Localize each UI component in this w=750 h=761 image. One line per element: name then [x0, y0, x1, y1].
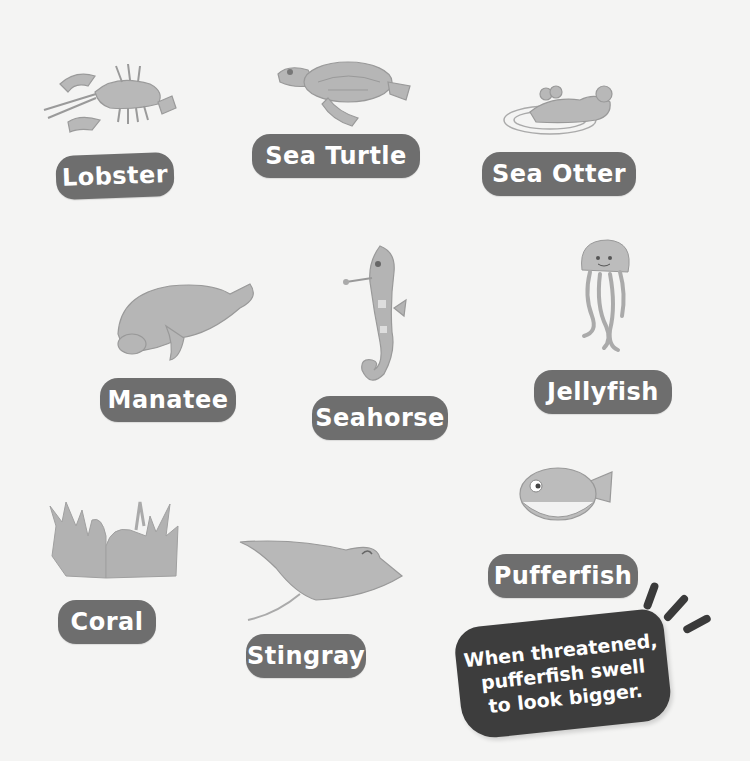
label-pufferfish: Pufferfish — [488, 554, 638, 598]
label-text: Seahorse — [315, 404, 445, 432]
lobster-illustration — [40, 62, 190, 142]
label-coral: Coral — [58, 600, 156, 644]
label-text: Pufferfish — [494, 562, 633, 590]
label-sea-otter: Sea Otter — [482, 152, 636, 196]
label-sea-turtle: Sea Turtle — [252, 134, 420, 178]
label-manatee: Manatee — [100, 378, 236, 422]
label-seahorse: Seahorse — [312, 396, 448, 440]
manatee-illustration — [110, 274, 255, 364]
seahorse-illustration — [340, 242, 420, 392]
label-jellyfish: Jellyfish — [534, 370, 672, 414]
label-text: Manatee — [108, 386, 229, 414]
label-text: Stingray — [247, 642, 365, 670]
label-text: Sea Turtle — [265, 142, 407, 170]
emphasis-mark — [682, 613, 712, 634]
label-text: Jellyfish — [547, 378, 659, 406]
emphasis-mark — [662, 593, 689, 622]
fact-bubble: When threatened, pufferfish swell to loo… — [453, 607, 674, 740]
page-background: Lobster Sea Turtle Sea Otter — [0, 0, 750, 761]
jellyfish-illustration — [572, 236, 642, 356]
label-text: Coral — [71, 608, 144, 636]
label-stingray: Stingray — [246, 634, 366, 678]
label-lobster: Lobster — [55, 152, 174, 200]
sea-otter-illustration — [500, 72, 630, 142]
label-text: Sea Otter — [492, 160, 626, 188]
emphasis-mark — [642, 581, 659, 610]
pufferfish-illustration — [508, 462, 618, 532]
coral-illustration — [46, 496, 186, 582]
sea-turtle-illustration — [268, 60, 418, 140]
stingray-illustration — [236, 528, 406, 628]
label-text: Lobster — [61, 160, 168, 192]
